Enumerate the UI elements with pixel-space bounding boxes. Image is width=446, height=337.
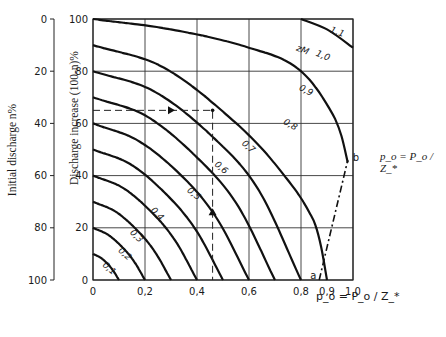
secondary-tick-label: 20: [34, 66, 47, 77]
z-m-label: zM: [294, 43, 310, 57]
curve-label: 0,2: [116, 245, 134, 262]
corner-dot: [211, 109, 215, 113]
secondary-tick-label: 0: [41, 14, 47, 25]
x-tick-label: 0,2: [137, 286, 153, 297]
x-tick-label: 0: [90, 286, 96, 297]
y-tick-label: 20: [75, 222, 88, 233]
curve-z-1-1: [301, 19, 353, 48]
curve-label: 0,8: [282, 116, 300, 132]
x-axis-title: p_o = P_o / Z_*: [316, 290, 400, 303]
curve-label: 1,1: [329, 25, 346, 39]
curve-label: 0,5: [185, 185, 203, 202]
side-formula: p_o = P_o / Z_*: [380, 150, 446, 174]
curve-family: 0,10,20,30,40,50,60,70,80,91,01,1zM: [93, 19, 353, 280]
plot-frame: [93, 19, 353, 280]
x-tick-label: 0,4: [189, 286, 205, 297]
curve-label: 0,6: [213, 159, 231, 176]
curve-z-0-6: [93, 123, 249, 280]
curve-label: 1,0: [315, 48, 332, 63]
secondary-y-axis: 100806040200: [28, 14, 54, 286]
grid-lines: [93, 19, 353, 280]
arrow-right-icon: [168, 106, 175, 114]
point-a-label: a: [310, 270, 316, 281]
y-tick-label: 100: [69, 14, 88, 25]
curve-label: 0,3: [128, 227, 145, 244]
y-tick-label: 0: [82, 275, 88, 286]
secondary-tick-label: 40: [34, 118, 47, 129]
secondary-tick-label: 100: [28, 275, 47, 286]
boundary-line-a-b: [319, 160, 348, 280]
curve-label: 0,4: [149, 205, 166, 222]
secondary-y-axis-title: Initial discharge n%: [6, 104, 18, 196]
secondary-tick-label: 80: [34, 222, 47, 233]
y-axis-title: Discharge increase (100-n)%: [68, 51, 80, 185]
x-tick-label: 0,8: [293, 286, 309, 297]
x-tick-label: 0,6: [241, 286, 257, 297]
secondary-tick-label: 60: [34, 170, 47, 181]
point-b-label: b: [353, 152, 359, 163]
